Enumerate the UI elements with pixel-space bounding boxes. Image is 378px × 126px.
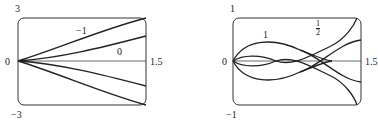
curve-label-one: 1 xyxy=(263,30,268,40)
x-max-label-right: 1.5 xyxy=(365,57,378,67)
y-max-label-right: 1 xyxy=(230,4,235,14)
y-min-label-right: −1 xyxy=(226,110,237,120)
right-plot: 1 0 1.5 −1 1 1 2 xyxy=(0,0,378,126)
curve-label-half: 1 2 xyxy=(316,20,320,37)
right-plot-svg xyxy=(0,0,378,126)
origin-label-right: 0 xyxy=(222,57,227,67)
